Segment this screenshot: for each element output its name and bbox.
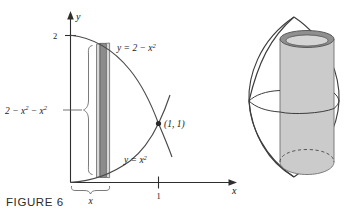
svg-text:y = x2: y = x2 <box>123 154 148 165</box>
shell-strip <box>97 43 110 178</box>
shell-width-label: x <box>87 196 93 206</box>
svg-text:y = 2 − x2: y = 2 − x2 <box>116 42 157 53</box>
figure-6-container: y x 2 1 (1, 1) <box>0 0 349 217</box>
solid-equator-left-lower <box>249 101 280 112</box>
x-axis <box>71 179 238 186</box>
figure-svg: y x 2 1 (1, 1) <box>0 0 349 217</box>
shell-strip-side-face <box>106 43 109 178</box>
x-axis-label: x <box>231 185 237 196</box>
y-axis <box>67 11 74 183</box>
label-upper-curve: y = 2 − x2 <box>116 42 157 53</box>
label-upper-curve-text: y = 2 − x <box>116 43 153 53</box>
shell-strip-back-face <box>97 44 101 178</box>
y-axis-label: y <box>75 11 81 22</box>
shell-height-prefix: 2 − x <box>5 106 26 116</box>
solid-equator-right <box>334 93 339 101</box>
label-lower-curve-text: y = x <box>123 155 144 165</box>
label-lower-curve-exponent: 2 <box>144 154 148 161</box>
cylinder-top-inner-ellipse <box>286 35 328 46</box>
solid-equator-left <box>249 91 280 102</box>
cylinder-body <box>280 39 334 175</box>
solid-of-revolution-diagram <box>249 17 339 177</box>
shell-height-middle: − x <box>28 106 44 116</box>
figure-caption: FIGURE 6 <box>6 196 64 208</box>
y-axis-arrowhead <box>67 11 74 20</box>
intersection-marker <box>156 121 161 126</box>
shell-height-exponent-2: 2 <box>44 104 48 111</box>
x-tick-1-label: 1 <box>156 191 160 201</box>
intersection-point-label: (1, 1) <box>164 119 185 130</box>
y-tick-2-label: 2 <box>53 31 57 41</box>
shell-height-label: 2 − x2 − x2 <box>5 104 48 115</box>
shell-strip-front-face <box>100 43 106 177</box>
shell-height-brace <box>84 46 93 175</box>
shell-width-brace <box>71 186 109 194</box>
label-upper-curve-exponent: 2 <box>153 42 157 49</box>
label-lower-curve: y = x2 <box>123 154 148 165</box>
